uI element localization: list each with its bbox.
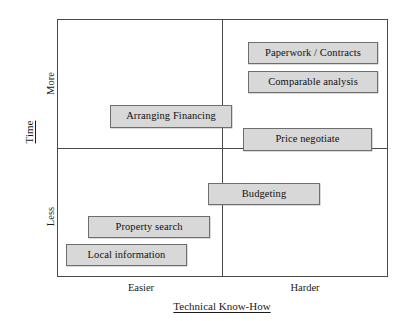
vertical-quadrant-divider — [222, 19, 223, 277]
task-box-label: Comparable analysis — [268, 77, 358, 88]
task-box[interactable]: Budgeting — [208, 183, 320, 205]
task-box-label: Price negotiate — [275, 134, 339, 145]
task-box[interactable]: Price negotiate — [243, 128, 372, 151]
y-axis-title: Time — [23, 115, 35, 149]
task-box[interactable]: Local information — [66, 244, 187, 266]
task-box-label: Property search — [115, 222, 182, 233]
y-axis-tick-less: Less — [45, 201, 56, 233]
x-axis-title: Technical Know-How — [131, 300, 313, 312]
task-box-label: Arranging Financing — [126, 111, 216, 122]
task-box[interactable]: Property search — [88, 216, 210, 238]
task-box[interactable]: Paperwork / Contracts — [248, 42, 378, 64]
task-box[interactable]: Comparable analysis — [248, 71, 378, 93]
task-box[interactable]: Arranging Financing — [110, 105, 232, 128]
x-axis-tick-easier: Easier — [110, 282, 172, 293]
quadrant-matrix-diagram: Paperwork / ContractsComparable analysis… — [0, 0, 411, 321]
task-box-label: Budgeting — [242, 189, 287, 200]
x-axis-tick-harder: Harder — [274, 282, 336, 293]
task-box-label: Local information — [88, 250, 166, 261]
task-box-label: Paperwork / Contracts — [265, 48, 361, 59]
y-axis-tick-more: More — [45, 68, 56, 100]
